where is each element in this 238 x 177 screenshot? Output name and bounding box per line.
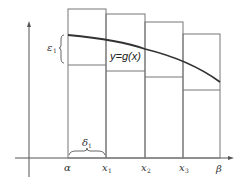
x-axis-arrow-icon	[228, 156, 234, 160]
epsilon-brace-icon	[59, 35, 64, 63]
partition-rectangles	[68, 9, 220, 158]
curve-g	[68, 35, 220, 82]
tick-beta: β	[215, 163, 222, 174]
tick-x1-sub: 1	[108, 167, 112, 174]
epsilon-subscript: 1	[53, 47, 57, 54]
upper-rect-3	[145, 22, 183, 158]
upper-rect-4	[183, 34, 220, 158]
curve-label: y=g(x)	[109, 50, 141, 62]
diagram-svg: y=g(x) ε 1 δ 1 α x 1 x 2 x 3 β	[0, 0, 238, 177]
upper-rect-1	[68, 9, 106, 158]
x-tick-labels: α x 1 x 2 x 3 β	[64, 162, 222, 174]
epsilon-label: ε	[47, 42, 52, 53]
tick-alpha: α	[64, 162, 71, 173]
upper-rect-2	[106, 14, 145, 158]
tick-x2-sub: 2	[147, 167, 151, 174]
y-axis-arrow-icon	[27, 21, 31, 27]
delta-subscript: 1	[88, 142, 92, 149]
delta-brace-icon	[69, 148, 105, 155]
diagram-canvas: y=g(x) ε 1 δ 1 α x 1 x 2 x 3 β	[0, 0, 238, 177]
tick-x3-sub: 3	[185, 167, 189, 174]
